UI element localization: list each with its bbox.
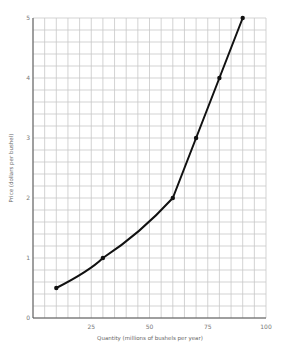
- tick-labels: 025507510012345: [26, 14, 272, 330]
- data-point: [241, 16, 245, 20]
- data-point: [171, 196, 175, 200]
- data-point: [54, 286, 58, 290]
- data-point: [101, 256, 105, 260]
- y-tick-label: 1: [26, 254, 30, 261]
- x-tick-label: 50: [146, 323, 154, 330]
- y-tick-label: 5: [26, 14, 30, 21]
- x-tick-label: 25: [87, 323, 95, 330]
- data-point: [194, 136, 198, 140]
- y-axis-label: Price (dollars per bushel): [8, 134, 15, 203]
- supply-curve-chart: 025507510012345 Quantity (millions of bu…: [0, 0, 287, 354]
- x-tick-label: 0: [26, 314, 30, 321]
- y-tick-label: 2: [26, 194, 30, 201]
- grid: [33, 18, 266, 318]
- data-point: [217, 76, 221, 80]
- y-tick-label: 4: [26, 74, 30, 81]
- x-tick-label: 75: [204, 323, 212, 330]
- y-tick-label: 3: [26, 134, 30, 141]
- x-tick-label: 100: [260, 323, 272, 330]
- x-axis-label: Quantity (millions of bushels per year): [97, 335, 203, 342]
